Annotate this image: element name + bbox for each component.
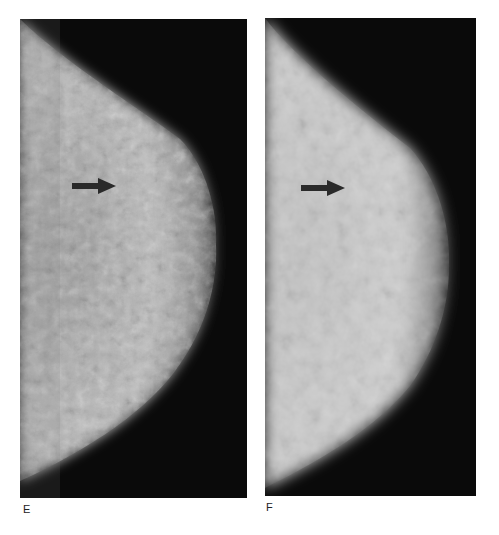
arrow-f bbox=[265, 18, 476, 496]
panel-label-e: E bbox=[23, 503, 30, 515]
mammogram-panel-e bbox=[20, 19, 247, 498]
mammogram-panel-f bbox=[265, 18, 476, 496]
arrow-e bbox=[20, 19, 247, 498]
panel-label-f: F bbox=[266, 501, 273, 513]
arrow-right-icon bbox=[72, 178, 116, 194]
arrow-right-icon bbox=[301, 180, 345, 196]
